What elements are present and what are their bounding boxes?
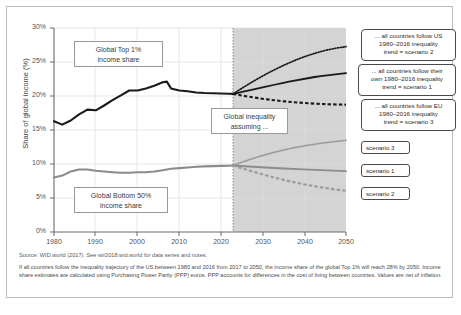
x-axis-ticks xyxy=(54,232,346,236)
explanatory-note: If all countries follow the inequality t… xyxy=(19,263,443,279)
x-tick-2010: 2010 xyxy=(164,238,194,245)
legend-scenario2-description: ... all countries follow US 1980–2016 in… xyxy=(361,29,456,61)
legend-tag-scenario1: scenario 1 xyxy=(361,164,410,177)
series-top1-historical xyxy=(54,82,233,125)
x-tick-2000: 2000 xyxy=(122,238,152,245)
series-bottom50-historical xyxy=(54,166,233,178)
x-tick-2050: 2050 xyxy=(331,238,361,245)
annotation-top1-share: Global Top 1% income share xyxy=(74,41,163,67)
legend-tag-scenario3: scenario 3 xyxy=(361,141,410,154)
x-tick-1980: 1980 xyxy=(39,238,69,245)
x-tick-2030: 2030 xyxy=(248,238,278,245)
figure-footer: Source: WID.world (2017). See wir2018.wi… xyxy=(19,251,443,279)
legend-tag-scenario2: scenario 2 xyxy=(361,187,410,200)
x-tick-1990: 1990 xyxy=(80,238,110,245)
figure-panel: 30% 25% 20% 15% 10% 5% 0% 1980 1990 2000… xyxy=(6,6,453,298)
source-note: Source: WID.world (2017). See wir2018.wi… xyxy=(19,251,443,259)
legend-scenario1-description: ... all countries follow their own 1980–… xyxy=(358,64,456,96)
y-tick-0: 0% xyxy=(22,227,46,234)
x-tick-2040: 2040 xyxy=(290,238,320,245)
annotation-global-inequality: Global inequality assuming ... xyxy=(211,108,288,134)
legend-scenario3-description: ... all countries follow EU 1980–2016 in… xyxy=(361,99,456,131)
y-tick-30: 30% xyxy=(22,23,46,30)
chart-plot-area: 30% 25% 20% 15% 10% 5% 0% 1980 1990 2000… xyxy=(7,7,454,245)
y-tick-5: 5% xyxy=(22,193,46,200)
y-axis-title: Share of global income (%) xyxy=(21,44,30,164)
annotation-bottom50-share: Global Bottom 50% income share xyxy=(74,187,168,213)
x-tick-2020: 2020 xyxy=(206,238,236,245)
y-axis-ticks xyxy=(50,28,54,232)
